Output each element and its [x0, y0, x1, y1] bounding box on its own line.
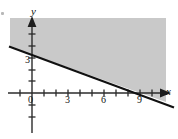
x-tick-label-0: 0 — [28, 95, 33, 105]
x-tick-label-3: 3 — [65, 95, 70, 105]
x-tick-label-6: 6 — [101, 95, 106, 105]
coordinate-plane — [0, 0, 178, 139]
y-axis-label: y — [31, 6, 36, 17]
x-axis-label: x — [166, 86, 171, 97]
shaded-region — [10, 18, 166, 102]
x-tick-label-9: 9 — [137, 95, 142, 105]
y-tick-label-3: 3 — [25, 55, 30, 65]
graph-figure: y x 0 3 6 9 3 — [0, 0, 178, 139]
